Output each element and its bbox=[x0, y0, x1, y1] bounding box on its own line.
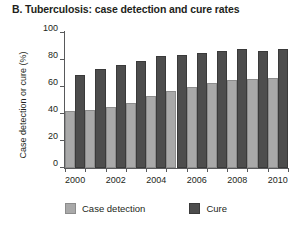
bar-case-detection-2007 bbox=[207, 83, 217, 168]
bar-case-detection-2006 bbox=[187, 87, 197, 168]
y-axis-tick-label: 40 bbox=[48, 104, 58, 114]
bar-cure-2000 bbox=[75, 75, 85, 168]
x-axis-tick bbox=[106, 168, 107, 172]
y-axis-tick bbox=[60, 167, 64, 168]
bar-cure-2003 bbox=[136, 61, 146, 168]
x-axis-tick bbox=[207, 168, 208, 172]
bar-cure-2010 bbox=[278, 49, 288, 168]
bar-case-detection-2004 bbox=[146, 96, 156, 168]
y-axis-tick-label: 60 bbox=[48, 77, 58, 87]
y-axis-tick-label: 80 bbox=[48, 50, 58, 60]
bar-case-detection-2009 bbox=[247, 79, 257, 168]
x-axis-tick bbox=[227, 168, 228, 172]
bar-cure-2001 bbox=[95, 69, 105, 168]
x-axis-tick-label: 2000 bbox=[65, 175, 85, 185]
plot-area: 020406080100200020022004200620082010 bbox=[65, 33, 288, 168]
y-axis-title: Case detection or cure (%) bbox=[18, 35, 28, 175]
chart-legend: Case detection Cure bbox=[65, 203, 227, 214]
bar-case-detection-2002 bbox=[106, 107, 116, 168]
x-axis-tick bbox=[146, 168, 147, 172]
x-axis-tick-label: 2004 bbox=[146, 175, 166, 185]
y-axis-tick bbox=[60, 113, 64, 114]
legend-label-case-detection: Case detection bbox=[82, 203, 145, 214]
chart-title: B. Tuberculosis: case detection and cure… bbox=[12, 3, 239, 15]
x-axis-tick-label: 2010 bbox=[268, 175, 288, 185]
bar-case-detection-2000 bbox=[65, 111, 75, 168]
x-axis-tick bbox=[166, 168, 167, 172]
x-axis-tick bbox=[268, 168, 269, 172]
y-axis-tick-label: 20 bbox=[48, 131, 58, 141]
legend-swatch-cure bbox=[189, 203, 200, 214]
x-axis-tick-label: 2006 bbox=[187, 175, 207, 185]
tuberculosis-bar-chart: B. Tuberculosis: case detection and cure… bbox=[0, 0, 300, 233]
y-axis-tick bbox=[60, 59, 64, 60]
x-axis-tick-label: 2002 bbox=[106, 175, 126, 185]
legend-item-case-detection: Case detection bbox=[65, 203, 145, 214]
bar-cure-2004 bbox=[156, 56, 166, 168]
x-axis-tick bbox=[288, 168, 289, 172]
bar-cure-2007 bbox=[217, 51, 227, 168]
y-axis-tick bbox=[60, 86, 64, 87]
x-axis-tick bbox=[187, 168, 188, 172]
legend-swatch-case-detection bbox=[65, 203, 76, 214]
bar-cure-2006 bbox=[197, 53, 207, 168]
bar-case-detection-2003 bbox=[126, 103, 136, 168]
bar-case-detection-2008 bbox=[227, 80, 237, 168]
bar-cure-2008 bbox=[237, 49, 247, 168]
y-axis-tick bbox=[60, 140, 64, 141]
legend-item-cure: Cure bbox=[189, 203, 227, 214]
bar-case-detection-2001 bbox=[85, 110, 95, 168]
y-axis-tick bbox=[60, 32, 64, 33]
x-axis-tick bbox=[65, 168, 66, 172]
x-axis-tick-label: 2008 bbox=[227, 175, 247, 185]
y-axis-tick-label: 0 bbox=[53, 158, 58, 168]
bar-case-detection-2005 bbox=[166, 91, 176, 168]
x-axis-tick bbox=[126, 168, 127, 172]
x-axis-tick bbox=[247, 168, 248, 172]
bar-cure-2002 bbox=[116, 65, 126, 168]
bar-cure-2005 bbox=[177, 55, 187, 168]
y-axis-tick-label: 100 bbox=[43, 23, 58, 33]
x-axis-tick bbox=[85, 168, 86, 172]
bar-case-detection-2010 bbox=[268, 78, 278, 168]
bar-cure-2009 bbox=[258, 51, 268, 168]
x-axis-line bbox=[64, 168, 289, 169]
legend-label-cure: Cure bbox=[206, 203, 227, 214]
